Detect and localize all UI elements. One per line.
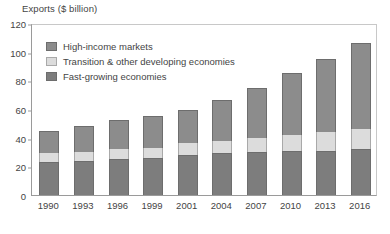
bar-segment <box>109 159 129 195</box>
bar-segment <box>178 110 198 143</box>
bar-segment <box>74 126 94 152</box>
bar-column[interactable] <box>109 120 129 195</box>
bar-column[interactable] <box>212 100 232 195</box>
x-axis-tick-label: 2016 <box>340 200 380 211</box>
bar-segment <box>351 43 371 129</box>
high-income-swatch-icon <box>46 42 57 51</box>
bar-segment <box>212 100 232 140</box>
bar-segment <box>247 152 267 195</box>
legend-label: Fast-growing economies <box>63 72 167 82</box>
bar-segment <box>143 148 163 158</box>
bar-column[interactable] <box>74 126 94 195</box>
bar-segment <box>247 88 267 138</box>
bar-segment <box>282 151 302 195</box>
legend-label: Transition & other developing economies <box>63 57 235 67</box>
stacked-bar-chart: Exports ($ billion) 020406080100120 1990… <box>0 0 390 234</box>
bar-segment <box>351 129 371 149</box>
bar-segment <box>178 155 198 195</box>
fast-growing-swatch-icon <box>46 72 57 81</box>
bar-segment <box>74 152 94 161</box>
bar-column[interactable] <box>178 110 198 195</box>
bar-column[interactable] <box>282 73 302 195</box>
bar-segment <box>143 158 163 195</box>
bar-column[interactable] <box>143 116 163 195</box>
bar-column[interactable] <box>351 43 371 195</box>
bar-segment <box>316 59 336 132</box>
legend-item-fast-growing: Fast-growing economies <box>46 70 235 83</box>
bar-segment <box>212 153 232 195</box>
bar-segment <box>212 141 232 154</box>
bar-column[interactable] <box>247 88 267 195</box>
bar-segment <box>247 138 267 152</box>
bar-column[interactable] <box>39 131 59 195</box>
bar-segment <box>282 73 302 135</box>
bar-segment <box>109 149 129 159</box>
bar-segment <box>39 131 59 154</box>
bar-segment <box>351 149 371 195</box>
legend-item-transition: Transition & other developing economies <box>46 55 235 68</box>
bar-segment <box>143 116 163 148</box>
bar-segment <box>74 161 94 195</box>
bar-segment <box>178 143 198 154</box>
legend-label: High-income markets <box>63 42 153 52</box>
legend: High-income markets Transition & other d… <box>46 40 235 85</box>
legend-item-high-income: High-income markets <box>46 40 235 53</box>
bar-segment <box>39 153 59 162</box>
bar-segment <box>316 151 336 195</box>
transition-swatch-icon <box>46 57 57 66</box>
bar-segment <box>282 135 302 151</box>
bar-column[interactable] <box>316 59 336 195</box>
bar-segment <box>316 132 336 151</box>
chart-title: Exports ($ billion) <box>22 3 97 14</box>
bar-segment <box>109 120 129 149</box>
bar-segment <box>39 162 59 195</box>
